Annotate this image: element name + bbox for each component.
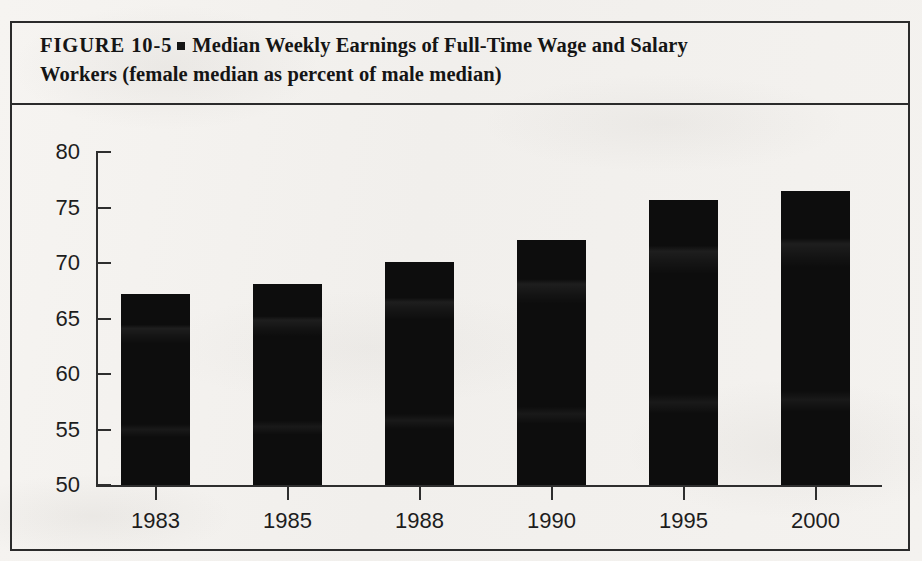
x-tick-label-1990: 1990 [492, 508, 612, 534]
x-tick-1990 [551, 487, 553, 500]
y-tick-label-50: 50 [34, 472, 80, 498]
y-tick-60 [98, 373, 111, 375]
x-tick-label-1983: 1983 [96, 508, 216, 534]
figure-screenshot: FIGURE 10-5Median Weekly Earnings of Ful… [0, 0, 922, 561]
bar-1985 [253, 284, 322, 485]
y-label-wrap-75: 75 [34, 195, 80, 219]
y-tick-65 [98, 318, 111, 320]
x-tick-2000 [815, 487, 817, 500]
y-tick-70 [98, 262, 111, 264]
bar-1990 [517, 240, 586, 485]
y-label-wrap-50: 50 [34, 472, 80, 496]
x-tick-label-1995: 1995 [624, 508, 744, 534]
x-axis-line [96, 485, 882, 487]
bar-1995 [649, 200, 718, 485]
y-tick-label-55: 55 [34, 417, 80, 443]
y-tick-75 [98, 207, 111, 209]
x-tick-1988 [419, 487, 421, 500]
x-tick-1983 [155, 487, 157, 500]
y-tick-80 [98, 151, 111, 153]
y-label-wrap-65: 65 [34, 306, 80, 330]
y-tick-label-65: 65 [34, 306, 80, 332]
chart-plot-area: 50556065707580 198319851988199019952000 [0, 0, 922, 561]
bar-2000 [781, 191, 850, 485]
x-tick-1995 [683, 487, 685, 500]
bar-1983 [121, 294, 190, 485]
x-tick-label-1988: 1988 [360, 508, 480, 534]
y-tick-label-75: 75 [34, 195, 80, 221]
y-label-wrap-80: 80 [34, 139, 80, 163]
bar-1988 [385, 262, 454, 485]
y-label-wrap-60: 60 [34, 361, 80, 385]
x-tick-label-2000: 2000 [756, 508, 876, 534]
y-tick-50 [98, 484, 111, 486]
y-label-wrap-70: 70 [34, 250, 80, 274]
y-tick-55 [98, 429, 111, 431]
x-tick-1985 [287, 487, 289, 500]
y-tick-label-70: 70 [34, 250, 80, 276]
y-tick-label-80: 80 [34, 139, 80, 165]
y-tick-label-60: 60 [34, 361, 80, 387]
y-label-wrap-55: 55 [34, 417, 80, 441]
x-tick-label-1985: 1985 [228, 508, 348, 534]
